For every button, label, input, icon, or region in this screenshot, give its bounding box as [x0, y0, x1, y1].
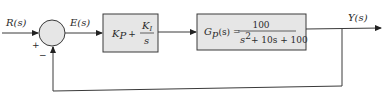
output-label: Y(s): [348, 12, 368, 23]
summing-junction: [39, 20, 65, 46]
output-arrow: [306, 28, 381, 29]
plant-numerator: 100: [252, 20, 269, 30]
input-label: R(s): [5, 17, 27, 28]
controller-ki-den: s: [144, 35, 149, 46]
error-label: E(s): [69, 17, 90, 28]
plus-sign: +: [32, 40, 40, 50]
block-diagram: R(s) + − E(s) KP+ KI s: [0, 0, 383, 96]
minus-sign: −: [39, 50, 47, 60]
